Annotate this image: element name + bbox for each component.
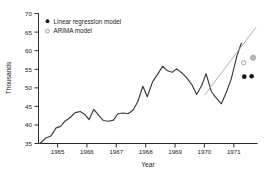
x-tick-label: 1965 (51, 148, 65, 155)
x-tick-label: 1966 (80, 148, 94, 155)
x-tick-label: 1969 (168, 148, 182, 155)
x-axis-tick-labels: 1965 1966 1967 1968 1969 1970 1971 (51, 148, 242, 155)
y-axis-title: Thousands (5, 61, 12, 94)
x-axis-ticks (58, 144, 234, 148)
y-axis: 35 40 45 50 55 60 65 70 Thousands (5, 10, 39, 147)
x-tick-label: 1968 (139, 148, 153, 155)
forecast-line-chart: 35 40 45 50 55 60 65 70 Thousands (0, 0, 268, 173)
x-tick-label: 1970 (198, 148, 212, 155)
chart-legend: Linear regression model ARIMA model (46, 18, 121, 35)
y-tick-label: 35 (25, 140, 32, 147)
legend-marker-arima (46, 29, 50, 33)
forecast-point-linear-regression (249, 74, 254, 79)
y-tick-label: 70 (25, 10, 32, 17)
plot-series-layer (40, 27, 256, 143)
y-axis-tick-labels: 35 40 45 50 55 60 65 70 (25, 10, 32, 147)
y-tick-label: 50 (25, 84, 32, 91)
x-tick-label: 1971 (227, 148, 241, 155)
y-tick-label: 60 (25, 47, 32, 54)
legend-marker-linear-regression (46, 19, 50, 23)
extrapolation-line (205, 27, 256, 95)
legend-label-arima: ARIMA model (54, 27, 93, 34)
x-tick-label: 1967 (109, 148, 123, 155)
x-axis-title: Year (141, 161, 155, 168)
forecast-point-arima (242, 61, 246, 65)
x-axis: 1965 1966 1967 1968 1969 1970 1971 Year (39, 144, 258, 169)
forecast-point-linear-regression (242, 74, 247, 79)
forecast-point-arima (250, 55, 255, 60)
chart-canvas: 35 40 45 50 55 60 65 70 Thousands (0, 0, 268, 173)
y-tick-label: 55 (25, 66, 32, 73)
y-tick-label: 40 (25, 121, 32, 128)
y-tick-label: 65 (25, 29, 32, 36)
y-tick-label: 45 (25, 103, 32, 110)
observed-series-line (40, 43, 241, 143)
y-axis-ticks (35, 14, 39, 144)
legend-label-linear-regression: Linear regression model (54, 18, 122, 26)
